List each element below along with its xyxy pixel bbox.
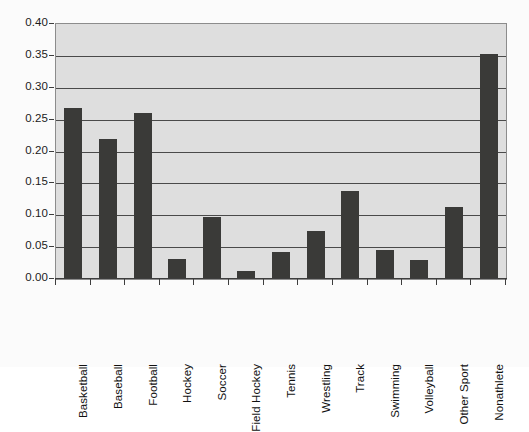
y-tick-mark <box>49 23 54 24</box>
x-axis-ticks <box>55 279 507 286</box>
plot-area <box>55 23 507 280</box>
x-tick-mark <box>436 279 437 285</box>
bar <box>480 54 498 279</box>
y-axis: 0.000.050.100.150.200.250.300.350.40 <box>0 0 48 367</box>
bar <box>445 207 463 279</box>
y-tick-label: 0.35 <box>2 49 48 60</box>
x-tick-label: Field Hockey <box>250 364 262 432</box>
x-tick-mark <box>263 279 264 285</box>
y-tick-label: 0.30 <box>2 81 48 92</box>
bar <box>376 250 394 279</box>
y-tick-mark <box>49 151 54 152</box>
bar <box>341 191 359 279</box>
bars-series <box>56 24 506 279</box>
y-tick-label: 0.00 <box>2 272 48 283</box>
y-tick-mark <box>49 87 54 88</box>
bar <box>307 231 325 279</box>
x-tick-mark <box>124 279 125 285</box>
x-tick-label: Wrestling <box>320 364 332 413</box>
y-tick-label: 0.20 <box>2 145 48 156</box>
bar <box>203 217 221 279</box>
x-tick-mark <box>332 279 333 285</box>
bar <box>410 260 428 279</box>
y-tick-label: 0.05 <box>2 240 48 251</box>
y-tick-mark <box>49 278 54 279</box>
x-tick-mark <box>228 279 229 285</box>
x-tick-label: Swimming <box>389 364 401 418</box>
y-tick-label: 0.40 <box>2 17 48 28</box>
x-tick-mark <box>90 279 91 285</box>
y-tick-label: 0.25 <box>2 113 48 124</box>
x-tick-label: Baseball <box>112 364 124 409</box>
x-tick-mark <box>159 279 160 285</box>
y-tick-mark <box>49 119 54 120</box>
x-tick-label: Track <box>354 364 366 393</box>
y-tick-mark <box>49 246 54 247</box>
bar <box>64 108 82 279</box>
bar <box>134 113 152 279</box>
x-tick-mark <box>367 279 368 285</box>
x-tick-label: Nonathlete <box>493 364 505 421</box>
x-axis-labels: BasketballBaseballFootballHockeySoccerFi… <box>55 286 507 367</box>
y-tick-mark <box>49 214 54 215</box>
x-tick-label: Hockey <box>181 364 193 403</box>
bar <box>272 252 290 279</box>
y-tick-label: 0.15 <box>2 176 48 187</box>
y-tick-mark <box>49 55 54 56</box>
y-tick-mark <box>49 182 54 183</box>
x-tick-mark <box>505 279 506 285</box>
x-tick-label: Volleyball <box>423 364 435 414</box>
x-tick-mark <box>297 279 298 285</box>
bar <box>99 139 117 279</box>
x-tick-label: Basketball <box>77 364 89 418</box>
x-tick-mark <box>55 279 56 285</box>
x-tick-mark <box>470 279 471 285</box>
x-tick-label: Soccer <box>216 364 228 400</box>
bar <box>168 259 186 279</box>
x-tick-label: Other Sport <box>458 364 470 425</box>
y-tick-label: 0.10 <box>2 208 48 219</box>
x-tick-mark <box>401 279 402 285</box>
x-tick-label: Football <box>147 364 159 406</box>
x-tick-mark <box>193 279 194 285</box>
x-tick-label: Tennis <box>285 364 297 398</box>
